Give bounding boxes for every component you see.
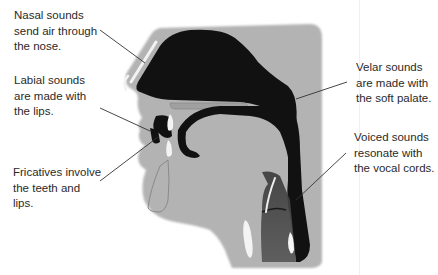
label-line: the nose. xyxy=(14,39,97,55)
label-line: the teeth and xyxy=(13,181,101,197)
labial-sounds-label: Labial sounds are made with the lips. xyxy=(14,73,86,120)
label-line: the lips. xyxy=(14,104,86,120)
label-line: Velar sounds xyxy=(356,60,431,76)
velar-sounds-label: Velar sounds are made with the soft pala… xyxy=(356,60,431,107)
label-line: are made with xyxy=(356,76,431,92)
nasal-leader-line xyxy=(100,30,145,63)
voiced-sounds-label: Voiced sounds resonate with the vocal co… xyxy=(354,130,435,177)
label-line: the vocal cords. xyxy=(354,161,435,177)
nasal-sounds-label: Nasal sounds send air through the nose. xyxy=(14,8,97,55)
fricatives-label: Fricatives involve the teeth and lips. xyxy=(13,165,101,212)
label-line: Fricatives involve xyxy=(13,165,101,181)
label-line: send air through xyxy=(14,24,97,40)
label-line: Labial sounds xyxy=(14,73,86,89)
label-line: the soft palate. xyxy=(356,91,431,107)
label-line: Nasal sounds xyxy=(14,8,97,24)
label-line: Voiced sounds xyxy=(354,130,435,146)
label-line: are made with xyxy=(14,89,86,105)
label-line: lips. xyxy=(13,196,101,212)
label-line: resonate with xyxy=(354,146,435,162)
